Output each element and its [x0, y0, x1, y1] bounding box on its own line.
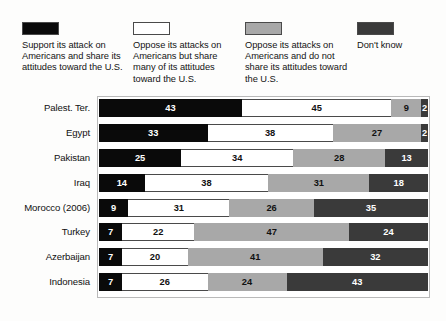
chart-row: Turkey7224724 — [0, 223, 446, 241]
bar-segment: 25 — [99, 149, 181, 167]
legend-swatch-oppose-share — [133, 22, 170, 35]
bar-segment: 24 — [349, 223, 428, 241]
bar-segment-value: 38 — [265, 128, 275, 138]
bar-segment-value: 9 — [404, 103, 409, 113]
row-category-label: Palest. Ter. — [0, 102, 90, 114]
row-category-label: Egypt — [0, 127, 90, 139]
bar-segment: 7 — [99, 223, 122, 241]
bar-segment: 7 — [99, 273, 122, 291]
bar-segment: 38 — [208, 124, 333, 142]
bar-segment: 9 — [99, 199, 128, 217]
legend-item-dont-know: Don't know — [357, 22, 443, 51]
bar-segment-value: 26 — [160, 277, 170, 287]
bar-segment-value: 47 — [267, 227, 277, 237]
stacked-bar: 14383118 — [99, 174, 428, 192]
bar-segment: 31 — [268, 174, 369, 192]
legend-swatch-support — [22, 22, 59, 35]
stacked-bar: 7262443 — [99, 273, 428, 291]
bar-segment: 26 — [229, 199, 314, 217]
row-category-label: Indonesia — [0, 276, 90, 288]
bar-segment: 32 — [323, 248, 428, 266]
bar-segment: 2 — [421, 99, 428, 117]
chart-rows: Palest. Ter.434592Egypt3338272Pakistan25… — [0, 99, 446, 298]
stacked-bar: 434592 — [99, 99, 428, 117]
stacked-bar: 9312635 — [99, 199, 428, 217]
legend-label-dont-know: Don't know — [357, 40, 443, 51]
row-category-label: Iraq — [0, 177, 90, 189]
row-category-label: Turkey — [0, 226, 90, 238]
bar-segment: 26 — [122, 273, 208, 291]
bar-segment-value: 24 — [383, 227, 393, 237]
bar-segment-value: 26 — [266, 203, 276, 213]
bar-segment-value: 27 — [372, 128, 382, 138]
chart-row: Iraq14383118 — [0, 174, 446, 192]
bar-segment: 28 — [293, 149, 385, 167]
bar-segment: 41 — [188, 248, 323, 266]
legend-label-support: Support its attack on Americans and shar… — [22, 40, 126, 74]
legend-item-oppose-noshare: Oppose its attacks on Americans and do n… — [245, 22, 351, 85]
bar-segment: 7 — [99, 248, 122, 266]
bar-segment-value: 43 — [352, 277, 362, 287]
bar-segment: 20 — [122, 248, 188, 266]
bar-segment-value: 2 — [422, 103, 427, 113]
bar-segment: 13 — [385, 149, 428, 167]
bar-segment-value: 38 — [201, 178, 211, 188]
row-category-label: Morocco (2006) — [0, 202, 90, 214]
bar-segment: 2 — [421, 124, 428, 142]
chart-row: Palest. Ter.434592 — [0, 99, 446, 117]
chart-legend: Support its attack on Americans and shar… — [0, 22, 446, 94]
legend-item-oppose-share: Oppose its attacks on Americans but shar… — [133, 22, 239, 85]
bar-segment-value: 28 — [334, 153, 344, 163]
bar-segment: 22 — [122, 223, 194, 241]
bar-segment-value: 7 — [108, 227, 113, 237]
bar-segment-value: 33 — [148, 128, 158, 138]
legend-swatch-oppose-noshare — [245, 22, 282, 35]
bar-segment: 9 — [391, 99, 421, 117]
bar-segment: 14 — [99, 174, 145, 192]
bar-segment-value: 45 — [311, 103, 321, 113]
bar-segment: 43 — [287, 273, 428, 291]
legend-label-oppose-share: Oppose its attacks on Americans but shar… — [133, 40, 239, 85]
bar-segment-value: 31 — [174, 203, 184, 213]
bar-segment-value: 7 — [108, 252, 113, 262]
bar-segment-value: 13 — [401, 153, 411, 163]
bar-segment: 38 — [145, 174, 269, 192]
legend-item-support: Support its attack on Americans and shar… — [22, 22, 126, 74]
bar-segment-value: 20 — [150, 252, 160, 262]
chart-row: Indonesia7262443 — [0, 273, 446, 291]
bar-segment: 33 — [99, 124, 208, 142]
bar-segment: 43 — [99, 99, 242, 117]
chart-row: Pakistan25342813 — [0, 149, 446, 167]
bar-segment: 31 — [128, 199, 229, 217]
chart-row: Azerbaijan7204132 — [0, 248, 446, 266]
stacked-bar: 3338272 — [99, 124, 428, 142]
legend-swatch-dont-know — [357, 22, 394, 35]
bar-segment-value: 41 — [250, 252, 260, 262]
bar-segment-value: 2 — [422, 128, 427, 138]
chart-row: Morocco (2006)9312635 — [0, 199, 446, 217]
chart-row: Egypt3338272 — [0, 124, 446, 142]
bar-segment: 35 — [314, 199, 428, 217]
bar-segment-value: 32 — [370, 252, 380, 262]
bar-segment: 24 — [208, 273, 287, 291]
bar-segment-value: 9 — [111, 203, 116, 213]
bar-segment-value: 7 — [108, 277, 113, 287]
row-category-label: Pakistan — [0, 152, 90, 164]
bar-segment-value: 35 — [366, 203, 376, 213]
chart-page: Support its attack on Americans and shar… — [0, 0, 446, 321]
bar-segment-value: 14 — [117, 178, 127, 188]
bar-segment: 27 — [333, 124, 422, 142]
bar-segment-value: 18 — [393, 178, 403, 188]
bar-segment-value: 22 — [153, 227, 163, 237]
bar-segment: 34 — [181, 149, 293, 167]
bar-segment-value: 43 — [165, 103, 175, 113]
legend-label-oppose-noshare: Oppose its attacks on Americans and do n… — [245, 40, 351, 85]
stacked-bar: 7204132 — [99, 248, 428, 266]
bar-segment: 18 — [369, 174, 428, 192]
bar-segment-value: 25 — [135, 153, 145, 163]
stacked-bar: 25342813 — [99, 149, 428, 167]
row-category-label: Azerbaijan — [0, 251, 90, 263]
bar-segment-value: 31 — [314, 178, 324, 188]
bar-segment-value: 24 — [242, 277, 252, 287]
stacked-bar: 7224724 — [99, 223, 428, 241]
